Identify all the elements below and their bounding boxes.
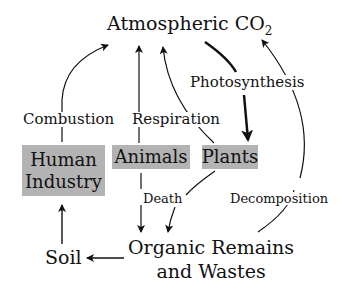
organic-line2: and Wastes	[156, 260, 265, 282]
photosynthesis-label: Photosynthesis	[189, 75, 305, 90]
atmospheric-co2-label: Atmospheric CO2	[107, 14, 272, 37]
organic-line1: Organic Remains	[128, 236, 294, 258]
respiration-plants-arrow	[163, 47, 214, 143]
decomposition-label: Decomposition	[229, 192, 329, 205]
human-industry-box: HumanIndustry	[22, 145, 105, 196]
human-line2: Industry	[25, 171, 102, 192]
respiration-label: Respiration	[131, 112, 221, 127]
title-subscript: 2	[265, 24, 273, 38]
plants-box: Plants	[202, 145, 258, 169]
death-label: Death	[142, 192, 183, 205]
combustion-label: Combustion	[22, 112, 115, 127]
photosynthesis-arrow-bottom	[244, 95, 248, 140]
human-line1: Human	[30, 149, 97, 170]
photosynthesis-arrow-top	[205, 42, 236, 72]
animals-box: Animals	[112, 145, 190, 169]
soil-label: Soil	[45, 248, 82, 267]
title-text: Atmospheric CO	[107, 12, 265, 34]
organic-remains-label: Organic Remainsand Wastes	[128, 236, 294, 284]
